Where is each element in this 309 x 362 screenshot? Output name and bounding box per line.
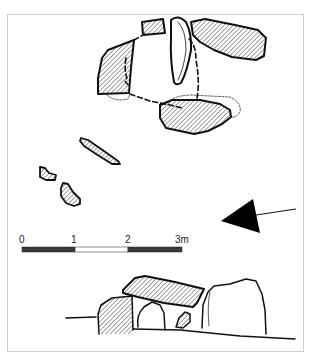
ground-line [133, 329, 295, 339]
stone-upright [171, 17, 191, 84]
scale-bar [22, 247, 182, 252]
boulder-right-inner [208, 292, 210, 326]
boulder-right [202, 279, 266, 334]
scale-label-0: 0 [19, 235, 25, 245]
upright-left-section [98, 296, 133, 334]
stone-slab-diagonal [80, 138, 120, 164]
scale-label-1: 1 [71, 235, 77, 245]
north-arrow [221, 199, 296, 233]
elevation-view [66, 276, 295, 339]
capstone [123, 276, 204, 307]
stone-small-left-2 [61, 183, 80, 206]
stone-small-top [142, 19, 165, 35]
stone-right [191, 19, 266, 60]
stone-small-left [40, 167, 56, 180]
arrow-shaft [256, 209, 296, 215]
scale-label-3m: 3m [175, 235, 189, 245]
arrow-head-icon [221, 199, 260, 233]
stone-small-elevation [176, 312, 190, 328]
upright-middle [138, 302, 165, 330]
ground-line-left [66, 317, 96, 318]
plan-drawing [0, 0, 309, 362]
scale-label-2: 2 [125, 235, 131, 245]
plan-view [40, 17, 266, 206]
stone-left-dashed [107, 94, 130, 100]
stone-left [98, 40, 134, 94]
